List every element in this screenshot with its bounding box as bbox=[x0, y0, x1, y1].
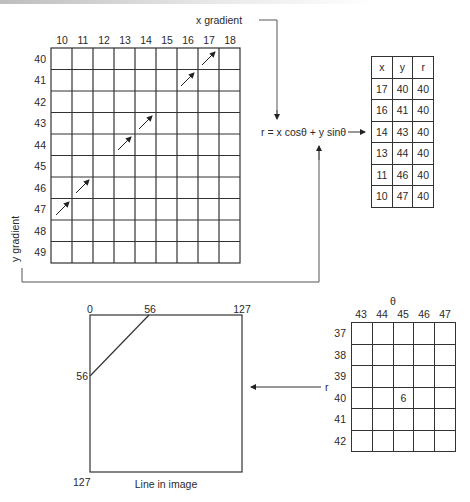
table-cell: 46 bbox=[392, 164, 413, 186]
arrow-icon bbox=[56, 202, 69, 215]
acc-cell bbox=[372, 323, 393, 345]
image-box bbox=[90, 315, 242, 472]
header-cell: y bbox=[392, 57, 413, 79]
acc-row-label: 37 bbox=[326, 328, 346, 339]
table-cell: 40 bbox=[413, 186, 434, 208]
acc-cell bbox=[372, 387, 393, 409]
table-row: 10 47 40 bbox=[372, 186, 434, 208]
image-top-right-label: 127 bbox=[233, 304, 251, 315]
acc-row bbox=[352, 366, 456, 388]
table-cell: 40 bbox=[413, 121, 434, 143]
image-top-mid-label: 56 bbox=[144, 304, 156, 315]
table-cell: 40 bbox=[413, 78, 434, 100]
acc-cell bbox=[414, 409, 435, 431]
acc-cell bbox=[435, 387, 456, 409]
acc-cell bbox=[435, 344, 456, 366]
acc-cell bbox=[352, 344, 373, 366]
acc-row bbox=[352, 344, 456, 366]
acc-row bbox=[352, 323, 456, 345]
acc-cell bbox=[393, 323, 414, 345]
header-cell: x bbox=[372, 57, 393, 79]
acc-cell bbox=[435, 409, 456, 431]
x-gradient-label: x gradient bbox=[196, 15, 242, 26]
hough-formula: r = x cosθ + y sinθ bbox=[261, 127, 346, 138]
acc-cell-peak: 6 bbox=[393, 387, 414, 409]
arrow-icon bbox=[139, 116, 152, 129]
acc-cell bbox=[372, 366, 393, 388]
acc-cell bbox=[414, 323, 435, 345]
acc-cell bbox=[352, 387, 373, 409]
table-row: 11 46 40 bbox=[372, 164, 434, 186]
table-cell: 47 bbox=[392, 186, 413, 208]
acc-col-label: 43 bbox=[355, 309, 367, 320]
r-axis-label: r bbox=[325, 382, 329, 393]
acc-row bbox=[352, 430, 456, 452]
acc-row: 6 bbox=[352, 387, 456, 409]
acc-col-label: 45 bbox=[397, 309, 409, 320]
table-cell: 16 bbox=[372, 100, 393, 122]
acc-cell bbox=[352, 430, 373, 452]
acc-cell bbox=[393, 344, 414, 366]
table-row: 16 41 40 bbox=[372, 100, 434, 122]
y-gradient-label: y gradient bbox=[10, 216, 21, 262]
acc-cell bbox=[393, 366, 414, 388]
acc-cell bbox=[435, 366, 456, 388]
table-cell: 41 bbox=[392, 100, 413, 122]
acc-cell bbox=[352, 323, 373, 345]
table-cell: 40 bbox=[413, 143, 434, 165]
acc-cell bbox=[372, 430, 393, 452]
image-bottom-left-label: 127 bbox=[73, 477, 91, 488]
table-row: 13 44 40 bbox=[372, 143, 434, 165]
table-cell: 17 bbox=[372, 78, 393, 100]
table-cell: 40 bbox=[413, 100, 434, 122]
image-caption: Line in image bbox=[135, 479, 197, 490]
header-cell: r bbox=[413, 57, 434, 79]
acc-cell bbox=[414, 344, 435, 366]
table-cell: 44 bbox=[392, 143, 413, 165]
table-header-row: x y r bbox=[372, 57, 434, 79]
arrow-icon bbox=[202, 52, 215, 65]
result-table: x y r 17 40 40 16 41 40 14 43 40 13 44 4… bbox=[371, 56, 434, 208]
acc-cell bbox=[393, 409, 414, 431]
table-row: 14 43 40 bbox=[372, 121, 434, 143]
table-cell: 43 bbox=[392, 121, 413, 143]
acc-col-label: 46 bbox=[418, 309, 430, 320]
image-top-left-label: 0 bbox=[87, 304, 93, 315]
acc-cell bbox=[414, 430, 435, 452]
acc-cell bbox=[372, 409, 393, 431]
acc-cell bbox=[352, 366, 373, 388]
table-row: 17 40 40 bbox=[372, 78, 434, 100]
acc-row-label: 39 bbox=[326, 371, 346, 382]
table-cell: 14 bbox=[372, 121, 393, 143]
acc-cell bbox=[393, 430, 414, 452]
table-cell: 11 bbox=[372, 164, 393, 186]
acc-row bbox=[352, 409, 456, 431]
acc-col-label: 47 bbox=[439, 309, 451, 320]
table-cell: 10 bbox=[372, 186, 393, 208]
theta-axis-label: θ bbox=[390, 296, 396, 307]
acc-cell bbox=[372, 344, 393, 366]
acc-cell bbox=[414, 366, 435, 388]
acc-row-label: 40 bbox=[326, 393, 346, 404]
acc-row-label: 38 bbox=[326, 350, 346, 361]
acc-row-label: 42 bbox=[326, 436, 346, 447]
arrow-icon bbox=[76, 180, 89, 193]
acc-cell bbox=[414, 387, 435, 409]
detected-line bbox=[90, 315, 149, 376]
table-cell: 40 bbox=[413, 164, 434, 186]
acc-cell bbox=[435, 323, 456, 345]
accumulator-grid: 6 bbox=[351, 322, 456, 452]
acc-cell bbox=[435, 430, 456, 452]
image-left-mid-label: 56 bbox=[62, 371, 88, 382]
acc-row-label: 41 bbox=[326, 414, 346, 425]
table-cell: 13 bbox=[372, 143, 393, 165]
acc-cell bbox=[352, 409, 373, 431]
arrow-icon bbox=[181, 73, 194, 86]
gradient-grid bbox=[51, 48, 240, 263]
x-gradient-connector bbox=[259, 20, 277, 119]
acc-col-label: 44 bbox=[376, 309, 388, 320]
table-cell: 40 bbox=[392, 78, 413, 100]
arrow-icon bbox=[118, 137, 131, 150]
y-gradient-connector bbox=[22, 146, 319, 282]
